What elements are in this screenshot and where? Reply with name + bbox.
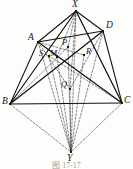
vertex-label-d: D xyxy=(106,21,113,31)
geometry-figure: X D A B C Y P S M R Q 图 17-17 xyxy=(0,0,133,169)
point-label-s: S xyxy=(39,49,43,58)
dot-b xyxy=(9,103,11,105)
dot-x xyxy=(75,10,77,12)
edge-a-r xyxy=(38,42,84,55)
dot-a xyxy=(37,41,39,43)
vertex-label-x: X xyxy=(72,0,78,10)
edge-b-m-d xyxy=(10,31,103,104)
point-label-q: Q xyxy=(61,80,67,89)
point-label-p: P xyxy=(62,38,67,47)
vertex-label-a: A xyxy=(28,33,34,43)
edge-p-y xyxy=(68,47,71,152)
dot-d xyxy=(102,30,104,32)
edge-c-d xyxy=(103,31,122,103)
edge-c-y xyxy=(71,103,122,152)
edge-x-y xyxy=(71,11,76,152)
point-label-r: R xyxy=(86,47,91,56)
dot-r xyxy=(83,54,85,56)
edge-a-d xyxy=(38,31,103,42)
point-label-m: M xyxy=(50,49,57,58)
edge-b-x-outline xyxy=(10,11,76,104)
edge-x-d xyxy=(76,11,103,31)
dot-q xyxy=(69,88,71,90)
vertex-label-b: B xyxy=(2,97,8,107)
edge-a-b xyxy=(10,42,38,104)
edge-b-c xyxy=(10,103,122,104)
dot-c xyxy=(121,102,123,104)
edge-q-y xyxy=(70,89,71,152)
edge-a-y xyxy=(38,42,71,152)
edge-x-c-outline xyxy=(76,11,122,103)
figure-caption: 图 17-17 xyxy=(0,161,133,169)
vertex-label-c: C xyxy=(124,96,130,106)
